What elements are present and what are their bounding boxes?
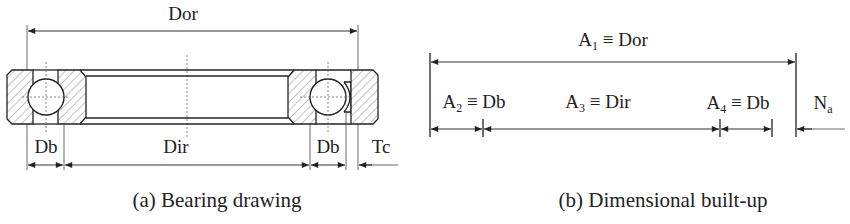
a2-label: A2 ≡ Db	[442, 91, 505, 115]
na-label: Na	[813, 92, 833, 116]
a3-label: A3 ≡ Dir	[565, 91, 631, 115]
caption-b: (b) Dimensional built-up	[559, 188, 768, 212]
dor-label: Dor	[168, 3, 198, 24]
a4-label: A4 ≡ Db	[706, 92, 769, 116]
tc-label: Tc	[372, 136, 391, 157]
a1-label: A1 ≡ Dor	[578, 29, 648, 53]
db-right-label: Db	[316, 136, 339, 157]
db-left-label: Db	[34, 136, 57, 157]
bearing-drawing: Dor	[7, 3, 398, 212]
bearing-dimension-figure: Dor	[0, 0, 850, 224]
dimensional-buildup: A1 ≡ Dor A2 ≡ Db A3 ≡ Dir A4 ≡ Db Na (b)…	[430, 29, 845, 212]
caption-a: (a) Bearing drawing	[132, 188, 302, 212]
right-outer-ring	[351, 70, 378, 124]
dir-label: Dir	[163, 136, 189, 157]
